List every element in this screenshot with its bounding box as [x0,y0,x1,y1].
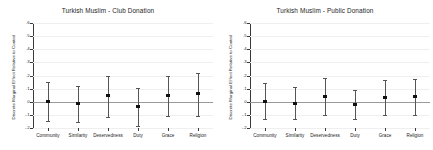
y-axis-tick [30,49,33,50]
confidence-interval-cap [196,73,199,74]
data-point-marker [196,92,199,95]
y-axis-label-public-donation: Discrete Marginal Effect Relative to Con… [226,25,235,129]
x-axis-tick [355,128,356,131]
confidence-interval-cap [106,76,109,77]
x-axis-tick [295,128,296,131]
confidence-interval-cap [76,122,79,123]
data-point-marker [323,95,326,98]
y-axis-tick [30,23,33,24]
y-axis-tick [247,128,250,129]
zero-reference-line [33,102,213,103]
y-axis-tick [247,23,250,24]
zero-reference-line [250,102,430,103]
y-axis-tick [247,76,250,77]
confidence-interval-cap [263,83,266,84]
y-gridline [33,76,213,77]
confidence-interval-cap [196,116,199,117]
confidence-interval-cap [166,116,169,117]
confidence-interval-cap [136,88,139,89]
data-point-marker [293,102,296,105]
x-axis-tick-label: Religion [390,133,433,138]
y-axis-tick-label: .6 [20,21,30,25]
y-axis-tick-label: .3 [20,60,30,64]
data-point-marker [136,105,139,108]
y-axis-tick-label: -.1 [20,113,30,117]
confidence-interval-cap [323,115,326,116]
data-point-marker [106,94,109,97]
y-axis-tick [30,62,33,63]
data-point-marker [166,94,169,97]
confidence-interval-cap [46,121,49,122]
y-gridline [250,62,430,63]
data-point-marker [263,100,266,103]
data-point-marker [46,100,49,103]
y-axis-tick [247,115,250,116]
x-axis-tick [168,128,169,131]
data-point-marker [76,102,79,105]
confidence-interval-cap [106,117,109,118]
y-axis-tick [30,36,33,37]
chart-panel-public-donation: Turkish Muslim - Public Donation Discret… [217,0,433,150]
y-axis-tick-label: .6 [237,21,247,25]
x-axis-tick [198,128,199,131]
y-axis-tick-label: -.1 [237,113,247,117]
y-axis-tick-label: -.2 [237,126,247,130]
y-axis-tick-label: .5 [237,34,247,38]
confidence-interval-cap [76,86,79,87]
y-axis-tick-label: .3 [237,60,247,64]
x-axis-tick [265,128,266,131]
x-axis-tick [138,128,139,131]
y-axis-tick-label: 0 [237,100,247,104]
y-gridline [33,115,213,116]
chart-panel-club-donation: Turkish Muslim - Club Donation Discrete … [0,0,216,150]
y-axis-tick [247,49,250,50]
confidence-interval-cap [353,119,356,120]
x-axis-tick [48,128,49,131]
y-gridline [250,128,430,129]
panel-title-public-donation: Turkish Muslim - Public Donation [217,7,433,14]
confidence-interval-cap [413,115,416,116]
y-axis-tick-label: .1 [20,86,30,90]
y-gridline [250,89,430,90]
confidence-interval-cap [46,82,49,83]
x-axis-tick [78,128,79,131]
y-gridline [33,36,213,37]
confidence-interval-cap [293,87,296,88]
confidence-interval-cap [323,78,326,79]
x-axis-tick-label: Religion [173,133,223,138]
y-axis-tick-label: .1 [237,86,247,90]
confidence-interval-cap [383,80,386,81]
plot-area-public-donation: -.2-.10.1.2.3.4.5.6CommunitySimilarityDe… [250,23,430,128]
data-point-marker [353,103,356,106]
x-axis-tick [108,128,109,131]
figure-container: Turkish Muslim - Club Donation Discrete … [0,0,433,150]
confidence-interval-cap [136,126,139,127]
y-axis-tick [247,62,250,63]
confidence-interval-cap [413,79,416,80]
y-gridline [250,36,430,37]
x-axis-tick [325,128,326,131]
y-axis-tick [247,36,250,37]
y-axis-tick-label: .5 [20,34,30,38]
y-gridline [33,62,213,63]
y-gridline [250,23,430,24]
y-axis-tick-label: .2 [20,73,30,77]
x-axis-tick [415,128,416,131]
y-gridline [33,128,213,129]
y-axis-tick [30,115,33,116]
confidence-interval-cap [263,119,266,120]
confidence-interval-cap [353,90,356,91]
y-gridline [33,49,213,50]
y-axis-tick [30,89,33,90]
y-gridline [33,89,213,90]
confidence-interval-cap [383,115,386,116]
y-axis-label-club-donation: Discrete Marginal Effect Relative to Con… [9,25,18,129]
y-axis-tick-label: .2 [237,73,247,77]
confidence-interval-cap [166,76,169,77]
y-gridline [250,115,430,116]
plot-area-club-donation: -.2-.10.1.2.3.4.5.6CommunitySimilarityDe… [33,23,213,128]
data-point-marker [383,96,386,99]
y-axis-tick [247,89,250,90]
y-gridline [250,76,430,77]
y-axis-tick-label: .4 [237,47,247,51]
